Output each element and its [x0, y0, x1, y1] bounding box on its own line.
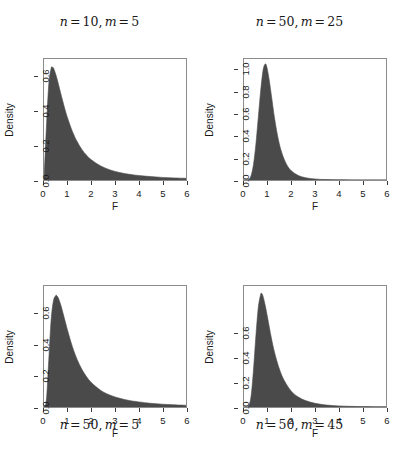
y-tick-0-2 [34, 111, 38, 112]
y-tick-3-3 [234, 333, 238, 334]
y-tick-label-2-2: 0.4 [40, 345, 51, 358]
x-axis-line-2 [43, 412, 187, 413]
y-axis-title-0: Density [4, 103, 15, 136]
x-tick-0-5 [163, 181, 164, 185]
x-tick-3-2 [291, 408, 292, 412]
x-tick-label-1-3: 3 [312, 188, 317, 199]
x-tick-3-4 [339, 408, 340, 412]
y-tick-2-1 [34, 376, 38, 377]
x-tick-0-4 [139, 181, 140, 185]
y-axis-title-1: Density [204, 103, 215, 136]
x-tick-label-1-6: 6 [384, 188, 389, 199]
x-tick-label-0-4: 4 [136, 188, 141, 199]
y-tick-2-3 [34, 313, 38, 314]
plot-box-2 [43, 285, 187, 408]
density-curve-2 [44, 286, 186, 407]
density-curve-3 [244, 286, 386, 407]
panel-3-title-var2: m [301, 417, 313, 432]
y-tick-label-1-1: 0.2 [240, 159, 251, 172]
panel-2-title-eq1: = [68, 417, 83, 432]
x-tick-2-5 [163, 408, 164, 412]
x-tick-label-0-1: 1 [64, 188, 69, 199]
y-tick-label-0-3: 0.6 [40, 76, 51, 89]
y-tick-1-3 [234, 114, 238, 115]
y-tick-label-0-2: 0.4 [40, 111, 51, 124]
x-tick-2-1 [67, 408, 68, 412]
panel-2-title-var2: m [105, 417, 117, 432]
density-curve-1 [244, 59, 386, 180]
x-tick-0-3 [115, 181, 116, 185]
y-tick-0-3 [34, 76, 38, 77]
x-tick-label-0-3: 3 [112, 188, 117, 199]
panel-3-title-val2: 45 [327, 417, 343, 432]
x-axis-line-0 [43, 185, 187, 186]
y-tick-0-0 [34, 181, 38, 182]
y-tick-label-2-1: 0.2 [40, 376, 51, 389]
panel-3-title-var1: n [256, 417, 264, 432]
x-tick-0-6 [187, 181, 188, 185]
panel-2-title-eq2: = [117, 417, 132, 432]
y-tick-label-1-5: 1.0 [240, 69, 251, 82]
panel-2-title-val2: 5 [131, 417, 139, 432]
plot-panel-0: n=10,m=5 F Density 01234560.00.20.40.6 [0, 0, 199, 227]
x-tick-1-3 [315, 181, 316, 185]
density-fill-2 [44, 295, 186, 407]
panel-1-title-eq1: = [264, 14, 279, 29]
plot-box-0 [43, 58, 187, 181]
x-tick-label-1-2: 2 [288, 188, 293, 199]
x-tick-0-2 [91, 181, 92, 185]
x-tick-1-2 [291, 181, 292, 185]
y-tick-label-0-1: 0.2 [40, 146, 51, 159]
panel-0-title-eq1: = [68, 14, 83, 29]
figure-panel-grid: n=10,m=5 F Density 01234560.00.20.40.6 n… [0, 0, 399, 454]
panel-1-title-val2: 25 [327, 14, 343, 29]
x-axis-title-0: F [43, 201, 187, 212]
y-tick-0-1 [34, 146, 38, 147]
panel-1-title-eq2: = [313, 14, 328, 29]
panel-0-title-val2: 5 [131, 14, 139, 29]
y-tick-label-1-0: 0.0 [240, 181, 251, 194]
plot-box-3 [243, 285, 387, 408]
x-tick-2-6 [187, 408, 188, 412]
panel-3-title-eq1: = [264, 417, 279, 432]
panel-title-0: n=10,m=5 [0, 14, 199, 29]
y-tick-3-2 [234, 358, 238, 359]
x-tick-label-1-5: 5 [360, 188, 365, 199]
plot-panel-2: F Density 01234560.00.20.40.6 n=50,m=5 [0, 227, 199, 454]
y-tick-1-1 [234, 159, 238, 160]
y-tick-1-4 [234, 92, 238, 93]
panel-title-1: n=50,m=25 [200, 14, 399, 29]
y-tick-3-0 [234, 408, 238, 409]
x-tick-label-0-2: 2 [88, 188, 93, 199]
plot-panel-1: n=50,m=25 F Density 01234560.00.20.40.60… [200, 0, 399, 227]
plot-area-2: F Density 01234560.00.20.40.6 [43, 285, 187, 408]
x-tick-3-5 [363, 408, 364, 412]
density-fill-0 [44, 67, 186, 180]
x-tick-label-1-1: 1 [264, 188, 269, 199]
panel-title-2: n=50,m=5 [0, 417, 199, 432]
plot-box-1 [243, 58, 387, 181]
plot-panel-3: F Density 01234560.00.20.40.6 n=50,m=45 [200, 227, 399, 454]
y-tick-1-5 [234, 69, 238, 70]
panel-0-title-val1: 10 [82, 14, 98, 29]
x-tick-label-0-6: 6 [184, 188, 189, 199]
plot-area-0: F Density 01234560.00.20.40.6 [43, 58, 187, 181]
x-tick-2-4 [139, 408, 140, 412]
y-tick-1-0 [234, 181, 238, 182]
plot-area-1: F Density 01234560.00.20.40.60.81.0 [243, 58, 387, 181]
panel-0-title-var2: m [105, 14, 117, 29]
x-tick-1-4 [339, 181, 340, 185]
x-tick-label-0-5: 5 [160, 188, 165, 199]
x-tick-1-1 [267, 181, 268, 185]
x-tick-2-3 [115, 408, 116, 412]
y-axis-title-3: Density [204, 330, 215, 363]
y-tick-3-1 [234, 383, 238, 384]
x-tick-3-6 [387, 408, 388, 412]
y-tick-label-0-0: 0.0 [40, 181, 51, 194]
panel-0-title-eq2: = [117, 14, 132, 29]
x-tick-0-1 [67, 181, 68, 185]
y-tick-label-3-3: 0.6 [240, 333, 251, 346]
y-tick-1-2 [234, 136, 238, 137]
x-axis-line-1 [243, 185, 387, 186]
panel-3-title-eq2: = [313, 417, 328, 432]
